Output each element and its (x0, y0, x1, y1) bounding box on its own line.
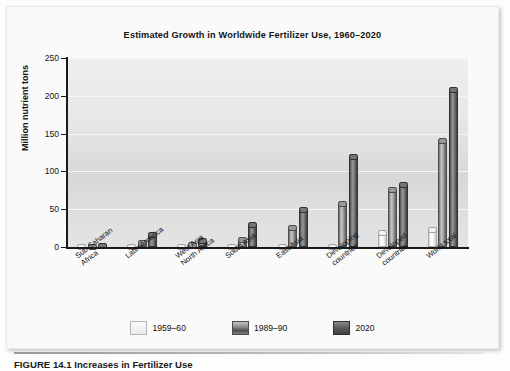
bar-cap (428, 227, 437, 233)
y-axis-line (66, 57, 68, 249)
y-tick (61, 209, 66, 210)
legend-label: 2020 (355, 323, 374, 333)
legend-label: 1989–90 (254, 323, 287, 333)
y-tick (61, 96, 66, 97)
legend-swatch (232, 321, 249, 335)
caption-rule (14, 352, 484, 354)
y-axis-tick-labels: 050100150200250 (27, 58, 61, 247)
chart-legend: 1959–601989–902020 (7, 321, 498, 335)
figure-caption-text: Increases in Fertilizer Use (74, 359, 192, 370)
bar-group (318, 58, 368, 247)
bar-group (67, 58, 117, 247)
legend-item[interactable]: 2020 (333, 321, 374, 335)
figure-caption-number: FIGURE 14.1 (14, 359, 72, 370)
y-tick-label: 150 (27, 129, 59, 139)
bar-group (117, 58, 167, 247)
legend-swatch (333, 321, 350, 335)
legend-item[interactable]: 1989–90 (232, 321, 287, 335)
bar-body (449, 90, 458, 247)
legend-item[interactable]: 1959–60 (130, 321, 185, 335)
bar-cap (288, 225, 297, 231)
x-axis-category-labels: Sub-Saharan AfricaLatin AmericaWest Asia… (67, 250, 468, 312)
y-tick-label: 200 (27, 91, 59, 101)
bar-cap (378, 230, 387, 236)
bar-cap (248, 222, 257, 228)
chart-card: Estimated Growth in Worldwide Fertilizer… (6, 6, 499, 349)
bar-group (418, 58, 468, 247)
y-tick-label: 250 (27, 53, 59, 63)
bar-group (167, 58, 217, 247)
bar-group (368, 58, 418, 247)
y-tick (61, 247, 66, 248)
bar-cap (438, 138, 447, 144)
figure-container: Estimated Growth in Worldwide Fertilizer… (0, 0, 510, 371)
y-tick (61, 58, 66, 59)
y-tick-label: 50 (27, 204, 59, 214)
bar-cap (338, 201, 347, 207)
y-tick (61, 134, 66, 135)
bar-cap (388, 187, 397, 193)
bar-group (268, 58, 318, 247)
y-tick-label: 0 (27, 242, 59, 252)
chart-title: Estimated Growth in Worldwide Fertilizer… (7, 30, 498, 40)
bar[interactable] (449, 88, 458, 247)
bar-body (438, 141, 447, 247)
bar[interactable] (438, 139, 447, 247)
bar-cap (349, 154, 358, 160)
plot-area (67, 58, 468, 247)
figure-caption: FIGURE 14.1 Increases in Fertilizer Use (14, 359, 484, 370)
bar-cap (399, 182, 408, 188)
bar-cap (449, 87, 458, 93)
legend-label: 1959–60 (152, 323, 185, 333)
y-tick (61, 171, 66, 172)
legend-swatch (130, 321, 147, 335)
bar-cap (299, 207, 308, 213)
bar-group (217, 58, 267, 247)
y-tick-label: 100 (27, 166, 59, 176)
